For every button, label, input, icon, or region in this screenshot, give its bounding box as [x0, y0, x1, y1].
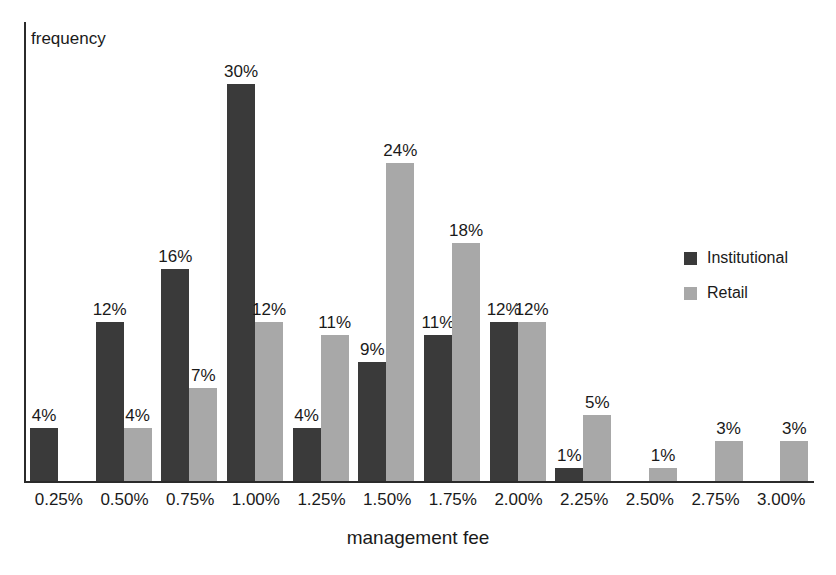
- bar-retail: [583, 415, 611, 481]
- bar-value-label: 11%: [422, 313, 455, 332]
- bar-value-label: 30%: [224, 62, 258, 81]
- legend-swatch-retail: [684, 287, 697, 300]
- bar-retail: [452, 243, 480, 481]
- bar-group: 9%24%: [354, 22, 420, 481]
- bar-institutional: [424, 335, 452, 481]
- x-axis-tick-label: 0.75%: [157, 489, 223, 511]
- bar-value-label: 4%: [294, 406, 319, 425]
- bar-value-label: 4%: [32, 406, 57, 425]
- bar-retail: [386, 163, 414, 481]
- bar-value-label: 4%: [125, 406, 150, 425]
- bar-group: 11%18%: [420, 22, 486, 481]
- x-axis-tick-label: 0.50%: [92, 489, 158, 511]
- bar-institutional: [161, 269, 189, 481]
- chart-legend: InstitutionalRetail: [684, 248, 788, 318]
- legend-label: Retail: [707, 284, 748, 302]
- bar-chart: frequency 4%12%4%16%7%30%12%4%11%9%24%11…: [0, 0, 836, 575]
- bar-group: 16%7%: [157, 22, 223, 481]
- bar-retail: [649, 468, 677, 481]
- bar-retail: [189, 388, 217, 481]
- x-axis-tick-labels: 0.25%0.50%0.75%1.00%1.25%1.50%1.75%2.00%…: [26, 489, 814, 515]
- bar-value-label: 12%: [515, 300, 549, 319]
- bar-value-label: 3%: [782, 419, 807, 438]
- bar-value-label: 9%: [360, 340, 385, 359]
- bar-value-label: 3%: [716, 419, 741, 438]
- x-axis-tick-label: 2.50%: [617, 489, 683, 511]
- bar-group: 12%4%: [92, 22, 158, 481]
- bar-value-label: 18%: [449, 221, 483, 240]
- bar-institutional: [555, 468, 583, 481]
- bar-retail: [715, 441, 743, 481]
- bar-retail: [518, 322, 546, 481]
- bar-institutional: [490, 322, 518, 481]
- bar-value-label: 24%: [383, 141, 417, 160]
- bar-retail: [255, 322, 283, 481]
- bar-retail: [780, 441, 808, 481]
- bar-institutional: [30, 428, 58, 481]
- x-axis-tick-label: 3.00%: [748, 489, 814, 511]
- bar-retail: [124, 428, 152, 481]
- bar-value-label: 12%: [252, 300, 286, 319]
- x-axis-tick-label: 0.25%: [26, 489, 92, 511]
- bar-value-label: 1%: [651, 446, 676, 465]
- legend-item: Retail: [684, 283, 788, 303]
- bar-value-label: 7%: [191, 366, 216, 385]
- bar-institutional: [358, 362, 386, 481]
- x-axis-tick-label: 2.25%: [551, 489, 617, 511]
- bar-group: 4%11%: [289, 22, 355, 481]
- bar-group: 4%: [26, 22, 92, 481]
- x-axis-tick-label: 1.75%: [420, 489, 486, 511]
- x-axis-tick-label: 1.50%: [354, 489, 420, 511]
- x-axis-line: [24, 481, 814, 483]
- bar-value-label: 11%: [318, 313, 351, 332]
- x-axis-tick-label: 2.00%: [486, 489, 552, 511]
- bar-value-label: 5%: [585, 393, 610, 412]
- bar-group: 1%5%: [551, 22, 617, 481]
- bar-group: 1%: [617, 22, 683, 481]
- bar-value-label: 12%: [93, 300, 127, 319]
- legend-swatch-institutional: [684, 252, 697, 265]
- bar-institutional: [96, 322, 124, 481]
- legend-item: Institutional: [684, 248, 788, 268]
- bar-group: 12%12%: [486, 22, 552, 481]
- x-axis-tick-label: 2.75%: [683, 489, 749, 511]
- bar-group: 30%12%: [223, 22, 289, 481]
- x-axis-tick-label: 1.25%: [289, 489, 355, 511]
- x-axis-tick-label: 1.00%: [223, 489, 289, 511]
- legend-label: Institutional: [707, 249, 788, 267]
- bar-institutional: [293, 428, 321, 481]
- x-axis-title: management fee: [0, 527, 836, 549]
- bar-institutional: [227, 84, 255, 481]
- bar-retail: [321, 335, 349, 481]
- bar-value-label: 16%: [158, 247, 192, 266]
- bar-value-label: 1%: [557, 446, 582, 465]
